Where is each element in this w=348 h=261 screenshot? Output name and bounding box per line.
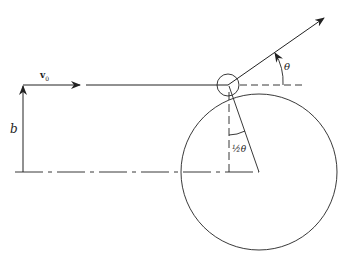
diagram-canvas [0, 0, 348, 261]
scattering-diagram: v0 b θ ½θ [0, 0, 348, 261]
theta-arc [275, 53, 283, 85]
velocity-label: v0 [40, 71, 49, 82]
velocity-subscript: 0 [45, 75, 49, 82]
theta-label: θ [284, 62, 290, 72]
half-theta-label: ½θ [232, 145, 246, 154]
outgoing-trajectory [228, 18, 324, 85]
impact-parameter-label: b [10, 123, 18, 135]
radius-line [229, 86, 259, 172]
half-theta-arc [229, 131, 245, 135]
